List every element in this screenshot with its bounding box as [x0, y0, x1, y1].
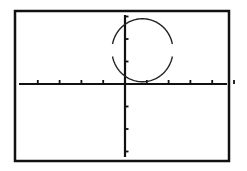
- graph-screen: [0, 0, 247, 171]
- window-frame: [15, 11, 229, 161]
